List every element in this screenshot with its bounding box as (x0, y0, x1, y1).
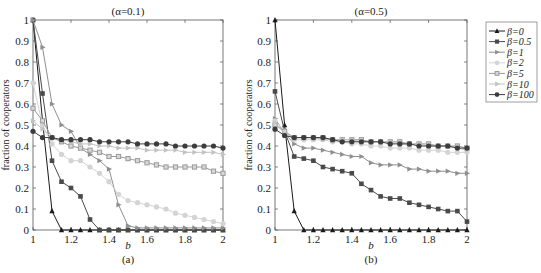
data-point-marker (331, 150, 336, 155)
panel-a-x-ticks: 11.21.41.61.82 (30, 20, 226, 245)
panel-b-caption: (b) (365, 253, 378, 266)
data-point-marker (40, 119, 44, 123)
data-point-marker (183, 150, 188, 155)
panel-a-x-label: b (125, 239, 131, 251)
data-point-marker (30, 80, 35, 85)
data-point-marker (116, 139, 121, 144)
data-point-marker (302, 146, 307, 151)
data-point-marker (40, 91, 45, 96)
data-point-marker (144, 202, 149, 207)
data-point-marker (407, 141, 412, 146)
data-point-marker (78, 158, 83, 163)
data-point-marker (211, 169, 215, 173)
data-point-marker (88, 148, 92, 152)
data-point-marker (97, 171, 102, 176)
data-point-marker (116, 228, 121, 233)
data-point-marker (78, 194, 83, 199)
data-point-marker (192, 215, 197, 220)
data-point-marker (464, 146, 469, 151)
series-2 (30, 80, 225, 226)
data-point-marker (107, 228, 112, 233)
data-point-marker (154, 204, 159, 209)
data-point-marker (97, 139, 102, 144)
y-tick-label: 0.8 (257, 56, 271, 68)
data-point-marker (126, 228, 131, 233)
x-tick-label: 2 (220, 233, 226, 245)
data-point-marker (135, 141, 140, 146)
data-point-marker (69, 144, 73, 148)
data-point-marker (427, 169, 432, 174)
data-point-marker (220, 146, 225, 151)
legend-label: β=0.5 (506, 36, 531, 47)
data-point-marker (173, 143, 178, 148)
data-point-marker (135, 159, 139, 163)
data-point-marker (182, 143, 187, 148)
data-point-marker (311, 135, 316, 140)
data-point-marker (426, 143, 431, 148)
x-tick-label: 1.2 (64, 233, 78, 245)
data-point-marker (495, 40, 499, 44)
data-point-marker (183, 165, 187, 169)
data-point-marker (164, 165, 168, 169)
data-point-marker (78, 137, 83, 142)
data-point-marker (173, 211, 178, 216)
data-point-marker (201, 217, 206, 222)
data-point-marker (446, 169, 451, 174)
data-point-marker (321, 148, 326, 153)
y-tick-label: 1 (266, 14, 272, 26)
y-tick-label: 0.3 (15, 161, 29, 173)
y-tick-label: 0.9 (257, 35, 271, 47)
data-point-marker (417, 203, 422, 208)
data-point-marker (78, 146, 82, 150)
panel-b-y-ticks: 00.10.20.30.40.50.60.70.80.91 (257, 14, 467, 236)
series-0-5 (273, 89, 470, 224)
data-point-marker (211, 219, 216, 224)
data-point-marker (446, 209, 451, 214)
data-point-marker (311, 158, 316, 163)
y-tick-label: 0 (24, 224, 30, 236)
data-point-marker (407, 167, 412, 172)
data-point-marker (154, 148, 159, 153)
data-point-marker (465, 171, 470, 176)
legend-label: β=100 (506, 89, 534, 100)
series-0 (272, 17, 469, 232)
data-point-marker (379, 162, 384, 167)
y-tick-label: 0.5 (15, 119, 29, 131)
data-point-marker (292, 208, 297, 213)
data-point-marker (340, 152, 345, 157)
data-point-marker (30, 129, 35, 134)
data-point-marker (107, 154, 111, 158)
x-tick-label: 2 (464, 233, 470, 245)
data-point-marker (292, 154, 297, 159)
data-point-marker (340, 139, 345, 144)
data-point-marker (116, 192, 121, 197)
data-point-marker (465, 219, 470, 224)
data-point-marker (106, 139, 111, 144)
data-point-marker (88, 217, 93, 222)
y-tick-label: 0.5 (257, 119, 271, 131)
y-tick-label: 0.4 (15, 140, 29, 152)
data-point-marker (145, 161, 149, 165)
figure: (α=0.1) 11.21.41.61.82 00.10.20.30.40.50… (0, 0, 541, 273)
data-point-marker (455, 171, 460, 176)
data-point-marker (59, 179, 64, 184)
data-point-marker (59, 137, 64, 142)
data-point-marker (359, 182, 364, 187)
data-point-marker (87, 164, 92, 169)
y-tick-label: 1 (24, 14, 30, 26)
data-point-marker (416, 143, 421, 148)
data-point-marker (126, 146, 131, 151)
panel-a-y-label: fraction of cooperators (0, 79, 11, 170)
y-tick-label: 0.2 (15, 182, 29, 194)
data-point-marker (398, 162, 403, 167)
data-point-marker (311, 146, 316, 151)
data-point-marker (398, 196, 403, 201)
data-point-marker (321, 165, 326, 170)
data-point-marker (436, 143, 441, 148)
data-point-marker (359, 139, 364, 144)
y-tick-label: 0.1 (15, 203, 29, 215)
data-point-marker (49, 141, 54, 146)
data-point-marker (220, 221, 225, 226)
panel-b: (α=0.5) 11.21.41.61.82 00.10.20.30.40.50… (243, 5, 470, 266)
data-point-marker (126, 223, 131, 228)
